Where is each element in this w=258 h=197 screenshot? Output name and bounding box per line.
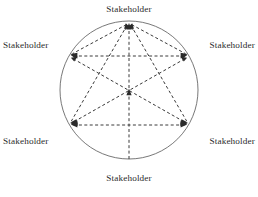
node-label-lower-right: Stakeholder (209, 137, 255, 146)
node-label-bottom: Stakeholder (106, 174, 152, 183)
diagram-canvas (0, 0, 258, 197)
edge-top-upperright (132, 25, 186, 54)
node-label-top: Stakeholder (106, 5, 152, 14)
node-label-lower-left: Stakeholder (3, 137, 49, 146)
arrowhead-into-upperleft-from-lowerright (71, 57, 78, 62)
node-label-upper-right: Stakeholder (209, 41, 255, 50)
edge-top-upperleft (73, 25, 127, 54)
edge-top-lowerleft (71, 25, 127, 121)
edge-top-lowerright (131, 25, 187, 121)
stakeholder-diagram: Stakeholder Stakeholder Stakeholder Stak… (0, 0, 258, 197)
node-label-upper-left: Stakeholder (3, 41, 49, 50)
arrowhead-into-upperright-from-lowerleft (180, 57, 187, 62)
